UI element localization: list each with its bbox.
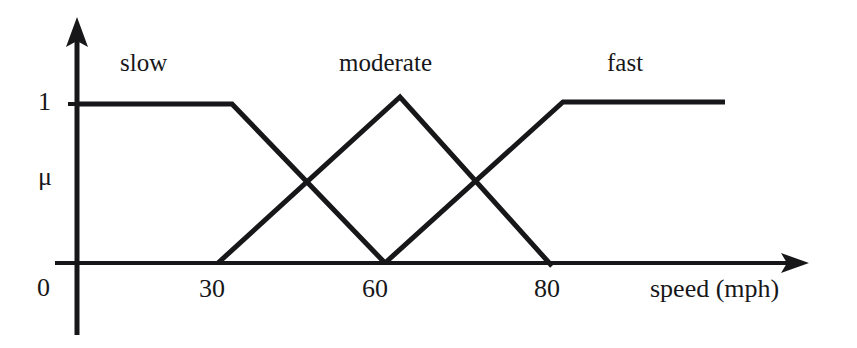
y-axis-value-one: 1 (38, 89, 51, 115)
slow-membership-curve (78, 104, 385, 263)
moderate-membership-curve (218, 97, 552, 266)
set-label-slow: slow (120, 50, 167, 75)
x-tick-label-30: 30 (199, 276, 225, 302)
set-label-fast: fast (607, 50, 643, 75)
x-tick-label-60: 60 (362, 276, 388, 302)
origin-zero-label: 0 (37, 275, 50, 301)
x-axis-title: speed (mph) (650, 276, 779, 302)
x-tick-label-80: 80 (534, 276, 560, 302)
fast-membership-curve (385, 102, 725, 263)
mu-axis-symbol: μ (38, 164, 52, 190)
set-label-moderate: moderate (339, 50, 432, 75)
fuzzy-membership-chart: 1 μ 0 slow moderate fast 30 60 80 speed … (0, 0, 857, 348)
